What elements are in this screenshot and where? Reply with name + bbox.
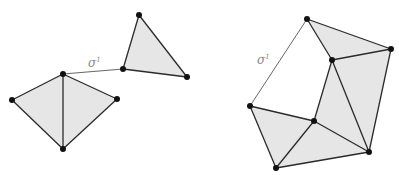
right-vertex (247, 103, 253, 109)
right-vertex (388, 46, 394, 52)
edge-label-sigma-left: σ1 (88, 56, 101, 70)
left-vertex (60, 146, 66, 152)
right-complex (247, 16, 394, 171)
left-triangle-face (12, 74, 63, 149)
left-vertex (136, 12, 142, 18)
right-vertex (329, 57, 335, 63)
simplicial-complex-diagram: σ1 σ1 (0, 0, 399, 175)
left-vertex (114, 96, 120, 102)
left-vertex (120, 66, 126, 72)
right-vertex (366, 149, 372, 155)
edge-label-sigma-right: σ1 (257, 53, 270, 67)
left-vertex (184, 74, 190, 80)
right-vertex (311, 118, 317, 124)
left-vertex (9, 97, 15, 103)
right-vertex (304, 16, 310, 22)
left-triangle-face (123, 15, 187, 77)
left-triangle-face (63, 74, 117, 149)
left-vertex (60, 71, 66, 77)
left-complex (9, 12, 190, 152)
right-vertex (273, 165, 279, 171)
